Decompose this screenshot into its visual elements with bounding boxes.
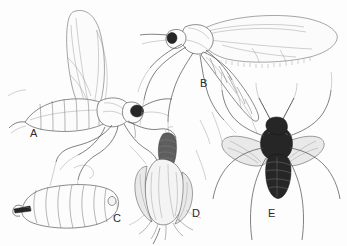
compound-eye-b (167, 33, 177, 44)
figure-plate: A B C D E (0, 0, 347, 246)
panel-label-c: C (113, 213, 121, 224)
stray-line-3 (196, 150, 206, 180)
wing-b (203, 15, 337, 68)
abdomen-a (9, 99, 112, 133)
panel-label-e: E (268, 208, 276, 219)
stray-line-1 (200, 120, 210, 144)
abdomen-e (266, 154, 291, 198)
stray-line-4 (130, 146, 146, 164)
stray-line-5 (8, 90, 26, 96)
panel-label-a: A (30, 128, 38, 139)
figure-canvas (0, 0, 347, 246)
panel-label-b: B (200, 78, 208, 89)
panel-label-d: D (192, 208, 200, 219)
panel-c-larva-lateral (13, 165, 119, 228)
